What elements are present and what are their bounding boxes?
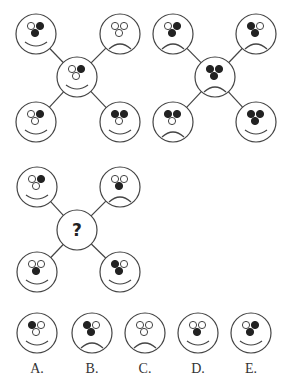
face-top-right [100,14,140,54]
left-eye-empty [111,175,118,182]
right-eye-filled [256,110,263,117]
left-eye-filled [111,260,118,267]
option-label-d[interactable]: D. [183,361,213,377]
connector-line [51,244,63,257]
left-eye-filled [247,110,254,117]
figure-2 [153,14,276,142]
face-bottom-left [153,102,193,142]
nose-empty [115,29,122,36]
face-center [195,57,235,97]
face-bottom-right [100,252,140,292]
nose-filled [115,267,122,274]
left-eye-empty [189,321,196,328]
right-eye-empty [256,22,263,29]
right-eye-empty [198,321,205,328]
left-eye-empty [28,260,35,267]
face-top-left [153,14,193,54]
option-face-c[interactable] [125,313,165,353]
left-eye-filled [164,110,171,117]
face-bottom-right [236,102,276,142]
nose-empty [32,182,39,189]
face-top-left [16,14,56,54]
nose-filled [193,328,200,335]
connector-line [91,244,105,258]
options-layer [17,313,271,353]
figures-layer: ? [16,14,276,292]
puzzle-canvas: ? [0,0,290,384]
option-face-a[interactable] [17,313,57,353]
nose-filled [168,29,175,36]
nose-filled [31,29,38,36]
face-bottom-left [16,102,56,142]
option-label-a[interactable]: A. [22,361,52,377]
right-eye-empty [120,175,127,182]
left-eye-empty [111,22,118,29]
nose-filled [251,117,258,124]
left-eye-empty [164,22,171,29]
right-eye-filled [36,110,43,117]
left-eye-empty [28,175,35,182]
question-mark: ? [72,220,82,240]
face-bottom-right [100,102,140,142]
nose-filled [210,72,217,79]
connector-line [91,201,106,216]
right-eye-filled [173,22,180,29]
left-eye-filled [28,321,35,328]
option-label-b[interactable]: B. [77,361,107,377]
right-eye-filled [120,110,127,117]
nose-empty [32,328,39,335]
figure-3: ? [17,167,140,292]
option-face-b[interactable] [72,313,112,353]
connector-line [49,92,63,107]
face-top-right [100,167,140,207]
right-eye-empty [92,321,99,328]
nose-empty [140,328,147,335]
right-eye-filled [215,65,222,72]
left-eye-filled [206,65,213,72]
right-eye-empty [120,260,127,267]
face-top-left [17,167,57,207]
option-face-e[interactable] [231,313,271,353]
nose-empty [168,117,175,124]
figure-1 [16,14,140,142]
left-eye-filled [111,110,118,117]
connector-line [187,48,201,62]
nose-filled [246,328,253,335]
connector-line [50,48,63,62]
right-eye-filled [36,22,43,29]
right-eye-empty [120,22,127,29]
connector-line [91,48,106,63]
face-bottom-left [17,252,57,292]
nose-filled [251,29,258,36]
left-eye-empty [136,321,143,328]
right-eye-filled [251,321,258,328]
connector-line [51,202,64,216]
nose-filled [115,182,122,189]
nose-empty [115,117,122,124]
option-label-e[interactable]: E. [236,361,266,377]
unknown-face: ? [57,210,97,250]
right-eye-filled [37,175,44,182]
connector-line [91,91,106,107]
right-eye-empty [37,260,44,267]
face-center [57,57,97,97]
connector-line [187,92,202,108]
left-eye-empty [242,321,249,328]
left-eye-filled [83,321,90,328]
right-eye-empty [145,321,152,328]
face-top-right [236,14,276,54]
connector-line [229,48,242,62]
left-eye-filled [247,22,254,29]
left-eye-empty [68,65,75,72]
nose-empty [72,72,79,79]
left-eye-empty [27,110,34,117]
right-eye-empty [37,321,44,328]
option-label-c[interactable]: C. [130,361,160,377]
connector-line [228,92,242,107]
option-face-d[interactable] [178,313,218,353]
right-eye-filled [173,110,180,117]
nose-empty [31,117,38,124]
left-eye-empty [27,22,34,29]
nose-filled [87,328,94,335]
nose-filled [32,267,39,274]
